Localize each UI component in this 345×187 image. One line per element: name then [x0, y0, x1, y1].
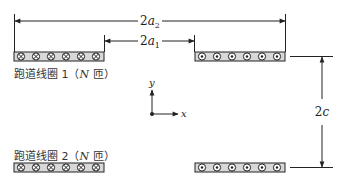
- coil-1-right-conductors: [195, 52, 285, 61]
- separation-dimension: 2c: [290, 57, 333, 168]
- x-axis-label: x: [181, 108, 187, 119]
- svg-text:2a2: 2a2: [140, 14, 160, 30]
- coil-1-left-conductors: [14, 52, 104, 61]
- outer-width-dimension: 2a2: [15, 14, 285, 30]
- coil-2-left-conductors: [14, 163, 104, 172]
- coil-diagram: 2a2 2a1 跑道线圈 1（N 匝） y: [0, 0, 345, 187]
- coil-2-right-conductors: [195, 163, 285, 172]
- coordinate-axes: y x: [148, 77, 187, 119]
- origin-dot: [150, 112, 154, 116]
- inner-width-dimension: 2a1: [105, 34, 194, 50]
- coil-1-label: 跑道线圈 1（N 匝）: [14, 67, 115, 81]
- svg-text:2c: 2c: [315, 105, 330, 119]
- svg-text:2a1: 2a1: [140, 34, 160, 50]
- y-axis-label: y: [148, 77, 155, 88]
- coil-2-label: 跑道线圈 2（N 匝）: [14, 149, 115, 163]
